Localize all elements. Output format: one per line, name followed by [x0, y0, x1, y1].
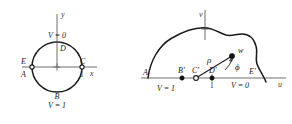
label-point-w: w [238, 46, 244, 55]
figure-canvas: y x V = 0 V = 1 D B C E A 1 [0, 0, 292, 124]
label-point-C: C [80, 57, 86, 66]
left-label-v-equals-zero: V = 0 [48, 31, 66, 40]
label-point-B: B [55, 92, 60, 101]
conformal-mapping-figure: y x V = 0 V = 1 D B C E A 1 [0, 0, 292, 124]
left-panel: y x V = 0 V = 1 D B C E A 1 [20, 10, 97, 110]
label-point-E-prime: E' [248, 67, 256, 76]
left-x-axis-label: x [89, 69, 94, 78]
label-point-D: D [59, 44, 66, 53]
point-marker-B-prime [180, 76, 184, 80]
label-point-B-prime: B' [178, 66, 185, 75]
label-point-A: A [20, 70, 26, 79]
label-rho: ρ [206, 55, 212, 65]
right-v-axis-label: v [199, 10, 203, 19]
label-point-C-prime: C' [192, 66, 199, 75]
label-phi: ϕ [235, 62, 240, 72]
left-label-v-equals-one: V = 1 [48, 101, 66, 110]
right-u-axis-label: u [278, 80, 282, 89]
point-marker-EA [30, 65, 34, 69]
point-marker-D-prime [210, 76, 214, 80]
label-point-E: E [20, 57, 26, 66]
point-marker-C-prime [194, 76, 199, 81]
point-marker-w [229, 53, 234, 58]
center-cross-marker [54, 64, 61, 71]
left-tick-label-one: 1 [80, 70, 84, 79]
left-y-axis-label: y [60, 10, 65, 19]
right-tick-label-one: 1 [210, 81, 214, 90]
right-label-v-equals-zero: V = 0 [231, 81, 249, 90]
label-point-A-prime: A' [142, 68, 150, 77]
label-point-D-prime: D' [208, 66, 217, 75]
right-panel: v u V = 1 V = 0 A' B' C' D' E' w ρ ϕ 1 [141, 10, 286, 93]
right-label-v-equals-one: V = 1 [157, 84, 175, 93]
